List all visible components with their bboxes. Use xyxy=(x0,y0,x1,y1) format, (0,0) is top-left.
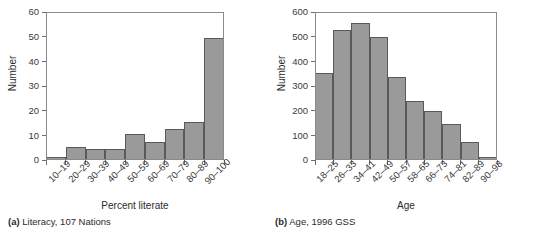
y-axis-tick-label: 400 xyxy=(292,57,311,67)
bar xyxy=(145,142,165,159)
x-axis-tick-mark xyxy=(315,160,316,165)
bar xyxy=(370,37,388,159)
caption-tag-b: (b) xyxy=(275,216,287,227)
y-axis-tick-label: 200 xyxy=(292,106,311,116)
bar xyxy=(66,147,86,159)
y-axis-tick-label: 0 xyxy=(303,155,311,165)
caption-tag-a: (a) xyxy=(8,216,20,227)
y-axis-a: 0102030405060 xyxy=(0,12,46,160)
caption-b: (b) Age, 1996 GSS xyxy=(275,216,355,227)
y-axis-tick-label: 0 xyxy=(34,155,42,165)
bar xyxy=(461,142,479,159)
bar xyxy=(351,23,369,159)
caption-text-a: Literacy, 107 Nations xyxy=(22,216,111,227)
bar xyxy=(388,77,406,159)
panel-a: Number 0102030405060 10–1920–2930–3940–4… xyxy=(0,0,267,242)
y-axis-tick-label: 100 xyxy=(292,131,311,141)
y-axis-tick-label: 300 xyxy=(292,81,311,91)
bar-series-a xyxy=(47,13,223,159)
y-axis-tick-label: 20 xyxy=(28,106,42,116)
bar xyxy=(165,129,185,159)
caption-text-b: Age, 1996 GSS xyxy=(289,216,355,227)
panel-b: Number 0100200300400500600 18–2526–3334–… xyxy=(267,0,534,242)
bar xyxy=(479,157,496,159)
bar xyxy=(442,124,460,159)
y-axis-tick-label: 50 xyxy=(28,32,42,42)
bar xyxy=(316,73,333,159)
bar xyxy=(184,122,204,159)
y-axis-tick-label: 600 xyxy=(292,7,311,17)
y-axis-tick-label: 10 xyxy=(28,131,42,141)
y-axis-tick-label: 60 xyxy=(28,7,42,17)
x-axis-title-b: Age xyxy=(315,200,497,211)
caption-a: (a) Literacy, 107 Nations xyxy=(8,216,111,227)
y-axis-tick-label: 500 xyxy=(292,32,311,42)
y-axis-b: 0100200300400500600 xyxy=(267,12,315,160)
plot-area-a xyxy=(46,12,224,160)
plot-area-b xyxy=(315,12,497,160)
bar xyxy=(333,30,351,159)
y-axis-tick-label: 30 xyxy=(28,81,42,91)
bar-series-b xyxy=(316,13,496,159)
bar xyxy=(125,134,145,159)
bar xyxy=(406,101,424,159)
bar xyxy=(424,111,442,159)
figure-container: Number 0102030405060 10–1920–2930–3940–4… xyxy=(0,0,534,242)
y-axis-tick-label: 40 xyxy=(28,57,42,67)
x-axis-title-a: Percent literate xyxy=(46,200,224,211)
x-axis-tick-mark xyxy=(46,160,47,165)
bar xyxy=(204,38,223,159)
